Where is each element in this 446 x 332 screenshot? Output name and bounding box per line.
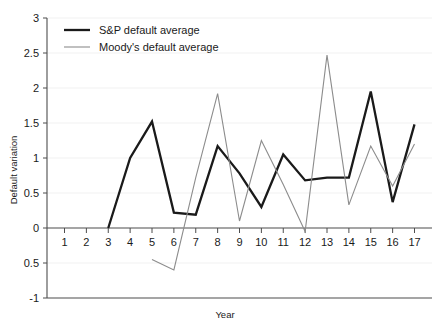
- legend-label-0: S&P default average: [99, 24, 200, 36]
- x-tick-label: 9: [236, 236, 242, 248]
- x-tick-label: 17: [408, 236, 420, 248]
- y-tick-label: 0.5: [24, 257, 39, 269]
- x-tick-label: 7: [193, 236, 199, 248]
- legend-label-1: Moody's default average: [99, 41, 219, 53]
- y-tick-label: 2.5: [24, 47, 39, 59]
- x-tick-labels: 1234567891011121314151617: [61, 236, 420, 248]
- x-tick-label: 3: [105, 236, 111, 248]
- y-axis-title: Default variation: [8, 136, 19, 205]
- x-axis-title: Year: [215, 309, 234, 320]
- y-tick-label: 1.5: [24, 117, 39, 129]
- x-tick-label: 15: [365, 236, 377, 248]
- y-tick-marks: [43, 18, 47, 298]
- x-tick-marks: [65, 228, 415, 233]
- y-tick-label: 0.5: [24, 187, 39, 199]
- x-tick-label: 13: [321, 236, 333, 248]
- x-tick-label: 14: [343, 236, 355, 248]
- x-tick-label: 16: [387, 236, 399, 248]
- y-tick-label: 0: [33, 222, 39, 234]
- x-tick-label: 5: [149, 236, 155, 248]
- line-chart-svg: 32.521.510.500.5-1 123456789101112131415…: [0, 0, 446, 332]
- x-tick-label: 2: [83, 236, 89, 248]
- x-tick-label: 10: [255, 236, 267, 248]
- series-line-0: [108, 92, 414, 229]
- x-tick-label: 8: [215, 236, 221, 248]
- y-tick-label: -1: [29, 292, 39, 304]
- y-tick-label: 2: [33, 82, 39, 94]
- x-tick-label: 12: [299, 236, 311, 248]
- gridlines-group: [47, 18, 432, 263]
- y-tick-label: 1: [33, 152, 39, 164]
- chart-legend: S&P default averageMoody's default avera…: [64, 24, 219, 53]
- x-tick-label: 6: [171, 236, 177, 248]
- x-tick-label: 1: [61, 236, 67, 248]
- y-tick-labels: 32.521.510.500.5-1: [24, 12, 39, 304]
- y-tick-label: 3: [33, 12, 39, 24]
- x-tick-label: 11: [278, 236, 289, 248]
- x-tick-label: 4: [127, 236, 133, 248]
- chart-figure: 32.521.510.500.5-1 123456789101112131415…: [0, 0, 446, 332]
